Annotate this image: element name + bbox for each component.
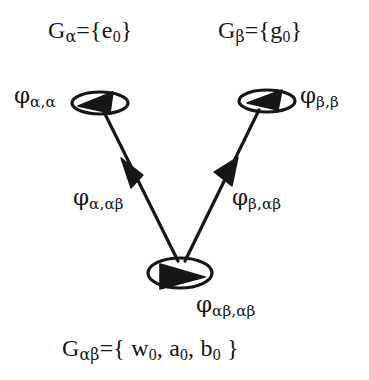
set-alphabeta-base: G <box>62 335 80 361</box>
edge-arrowhead-beta-alphabeta <box>214 157 238 186</box>
diagram-canvas: Gα={e0} Gβ={g0} φα,α φβ,β φα,αβ φβ,αβ φα… <box>0 0 369 380</box>
set-alphabeta-rest: ={ w <box>100 335 149 361</box>
set-beta-rest: ={g <box>245 17 283 43</box>
node-label-set-alpha: Gα={e0} <box>48 18 132 45</box>
set-beta-base: G <box>218 17 236 43</box>
phi-alphabeta-alphabeta-subscript: αβ,αβ <box>212 302 255 320</box>
self-loop-label-alpha: φα,α <box>14 84 56 110</box>
set-alphabeta-subscript: αβ <box>80 345 100 364</box>
phi-beta-alphabeta-base: φ <box>232 184 248 210</box>
set-alpha-base: G <box>48 17 66 43</box>
set-alphabeta-mid-1: , a <box>157 335 180 361</box>
phi-alpha-alphabeta-base: φ <box>73 184 89 210</box>
phi-beta-alphabeta-subscript: β,αβ <box>248 195 281 213</box>
self-loop-label-beta: φβ,β <box>300 84 339 110</box>
phi-alphabeta-alphabeta-base: φ <box>196 291 212 317</box>
phi-alpha-alphabeta-subscript: α,αβ <box>89 195 124 213</box>
node-label-set-alphabeta: Gαβ={ w0, a0, b0 } <box>62 336 239 363</box>
phi-beta-beta-base: φ <box>300 82 316 108</box>
set-alpha-subscript: α <box>66 27 77 46</box>
set-alpha-tail: } <box>121 17 133 43</box>
set-alpha-rest: ={e <box>76 17 112 43</box>
diagram-graphics <box>0 0 369 380</box>
set-beta-subscript: β <box>236 27 245 46</box>
phi-alpha-alpha-subscript: α,α <box>30 93 56 111</box>
phi-alpha-alpha-base: φ <box>14 82 30 108</box>
node-label-set-beta: Gβ={g0} <box>218 18 302 45</box>
edge-label-beta-alphabeta: φβ,αβ <box>232 186 281 212</box>
set-alphabeta-index-w: 0 <box>149 346 157 363</box>
phi-beta-beta-subscript: β,β <box>316 93 339 111</box>
set-alphabeta-tail: } <box>221 335 239 361</box>
set-beta-tail: } <box>290 17 302 43</box>
edge-label-alpha-alphabeta: φα,αβ <box>73 186 124 212</box>
set-alphabeta-mid-2: , b <box>188 335 213 361</box>
set-alphabeta-index-b: 0 <box>213 346 221 363</box>
set-alphabeta-index-a: 0 <box>180 346 188 363</box>
set-alpha-element-index: 0 <box>113 28 121 45</box>
self-loop-label-alphabeta: φαβ,αβ <box>196 293 255 319</box>
